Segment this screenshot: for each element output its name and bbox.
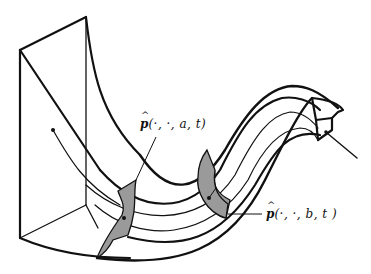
p-hat-symbol: p: [266, 207, 274, 221]
section-a-label: p(·, ·, a, t): [140, 118, 206, 130]
tube-diagram: p(·, ·, a, t) p(·, ·, b, t ): [0, 0, 371, 274]
cross-section-b: [198, 150, 262, 218]
section-b-label: p(·, ·, b, t ): [266, 208, 337, 220]
tube-surface-drawing: [0, 0, 371, 274]
section-a-args: (·, ·, a, t): [148, 117, 206, 131]
section-b-args: (·, ·, b, t ): [274, 207, 337, 221]
p-hat-symbol: p: [140, 117, 148, 131]
